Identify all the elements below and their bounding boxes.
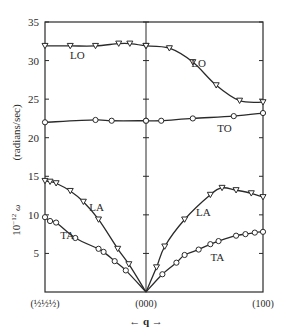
circle-marker	[123, 268, 128, 273]
plot-frame	[45, 22, 263, 292]
circle-marker	[208, 242, 213, 247]
circle-marker	[159, 118, 164, 123]
circle-marker	[42, 120, 47, 125]
circle-marker	[260, 110, 265, 115]
circle-marker	[190, 116, 195, 121]
circle-marker	[260, 229, 265, 234]
circle-marker	[182, 252, 187, 257]
ylabel-prefix: 10	[10, 224, 22, 236]
curve-label-la: LA	[89, 201, 104, 213]
curve-lo	[146, 46, 263, 103]
y-tick-label: 15	[28, 170, 40, 182]
curve-label-ta: TA	[60, 229, 74, 241]
circle-marker	[93, 117, 98, 122]
x-tick-label: (100)	[252, 298, 274, 310]
markers	[42, 41, 266, 277]
plot-border	[45, 22, 263, 292]
circle-marker	[96, 246, 101, 251]
x-tick-label: (000)	[135, 298, 157, 310]
circle-marker	[47, 218, 52, 223]
curves	[45, 43, 263, 292]
circle-marker	[174, 260, 179, 265]
circle-marker	[216, 238, 221, 243]
dispersion-chart: 5101520253035 (½½½)(000)(100) LOLOTOLALA…	[0, 0, 287, 331]
circle-marker	[160, 272, 165, 277]
y-tick-label: 20	[28, 132, 40, 144]
ylabel-symbol: ω	[12, 205, 22, 211]
curve-label-lo: LO	[70, 49, 85, 61]
triangle-marker	[162, 244, 168, 249]
ylabel-unit: (radians/sec)	[10, 104, 23, 161]
y-tick-label: 10	[28, 209, 40, 221]
curve-label-ta: TA	[210, 251, 224, 263]
y-tick-label: 25	[28, 93, 40, 105]
triangle-marker	[260, 195, 266, 200]
circle-marker	[143, 118, 148, 123]
svg-text:10−12 ω(radians/sec): 10−12 ω(radians/sec)	[10, 104, 23, 236]
curve-label-la: LA	[196, 206, 211, 218]
circle-marker	[109, 118, 114, 123]
curve-label-lo: LO	[191, 57, 206, 69]
circle-marker	[112, 259, 117, 264]
curve-ta	[146, 232, 263, 292]
ylabel-exponent: −12	[10, 213, 18, 224]
circle-marker	[231, 114, 236, 119]
triangle-marker	[53, 181, 59, 186]
circle-marker	[243, 232, 248, 237]
x-tick-label: (½½½)	[30, 298, 59, 310]
circle-marker	[101, 249, 106, 254]
circle-marker	[42, 215, 47, 220]
curve-label-to: TO	[217, 122, 232, 134]
y-tick-label: 5	[34, 247, 40, 259]
x-axis-label: ← q →	[129, 315, 163, 327]
circle-marker	[196, 247, 201, 252]
circle-marker	[54, 220, 59, 225]
y-tick-label: 35	[28, 16, 40, 28]
circle-marker	[252, 230, 257, 235]
circle-marker	[233, 233, 238, 238]
triangle-marker	[154, 265, 160, 270]
y-axis-label: 10−12 ω(radians/sec)	[10, 104, 23, 236]
x-axis: (½½½)(000)(100)	[30, 298, 273, 310]
triangle-marker	[126, 262, 132, 267]
y-tick-label: 30	[28, 55, 40, 67]
